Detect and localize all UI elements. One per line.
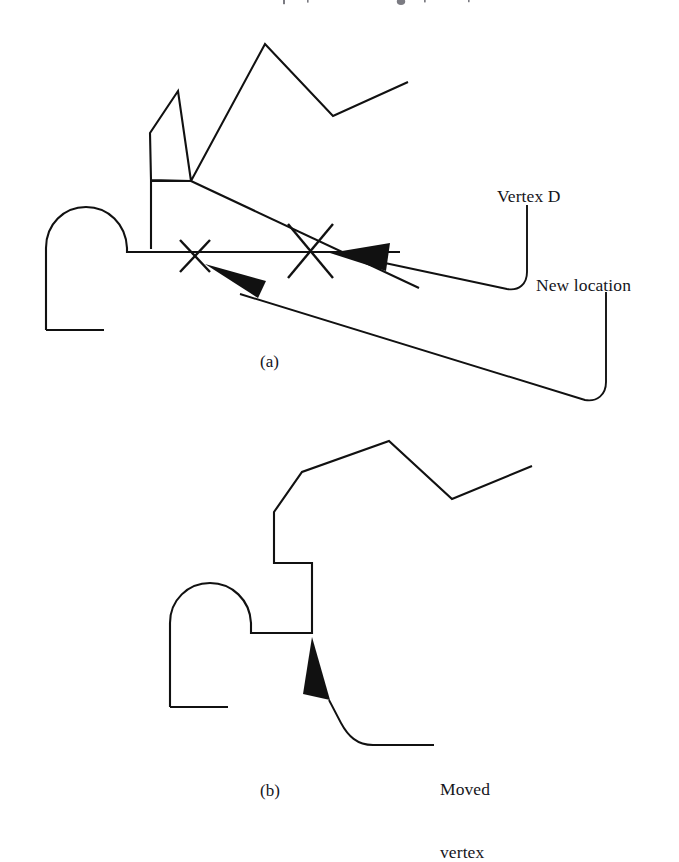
caption-panel-b: (b) (260, 781, 280, 801)
caption-panel-a: (a) (260, 352, 279, 372)
arrow-to-moved-vertex (303, 637, 330, 700)
panel-b-drawing (170, 441, 532, 745)
arrow-to-new-location (205, 264, 266, 298)
new-location-leader-line (240, 292, 606, 400)
label-moved-vertex: Moved vertex (440, 737, 490, 862)
moved-vertex-leader-line (329, 700, 434, 745)
label-vertex-d: Vertex D (497, 186, 561, 207)
label-moved-vertex-line1: Moved (440, 779, 490, 800)
panel-b-outline (170, 441, 532, 707)
arrow-to-vertex-d (330, 243, 390, 271)
label-new-location: New location (536, 275, 631, 296)
panel-a-drawing (46, 44, 606, 400)
panel-a-arch-outline (46, 207, 151, 330)
label-moved-vertex-line2: vertex (440, 842, 490, 862)
clipped-page-text (283, 0, 470, 5)
panel-a-jagged-outline (150, 44, 408, 249)
new-location-x-marker (180, 240, 210, 272)
